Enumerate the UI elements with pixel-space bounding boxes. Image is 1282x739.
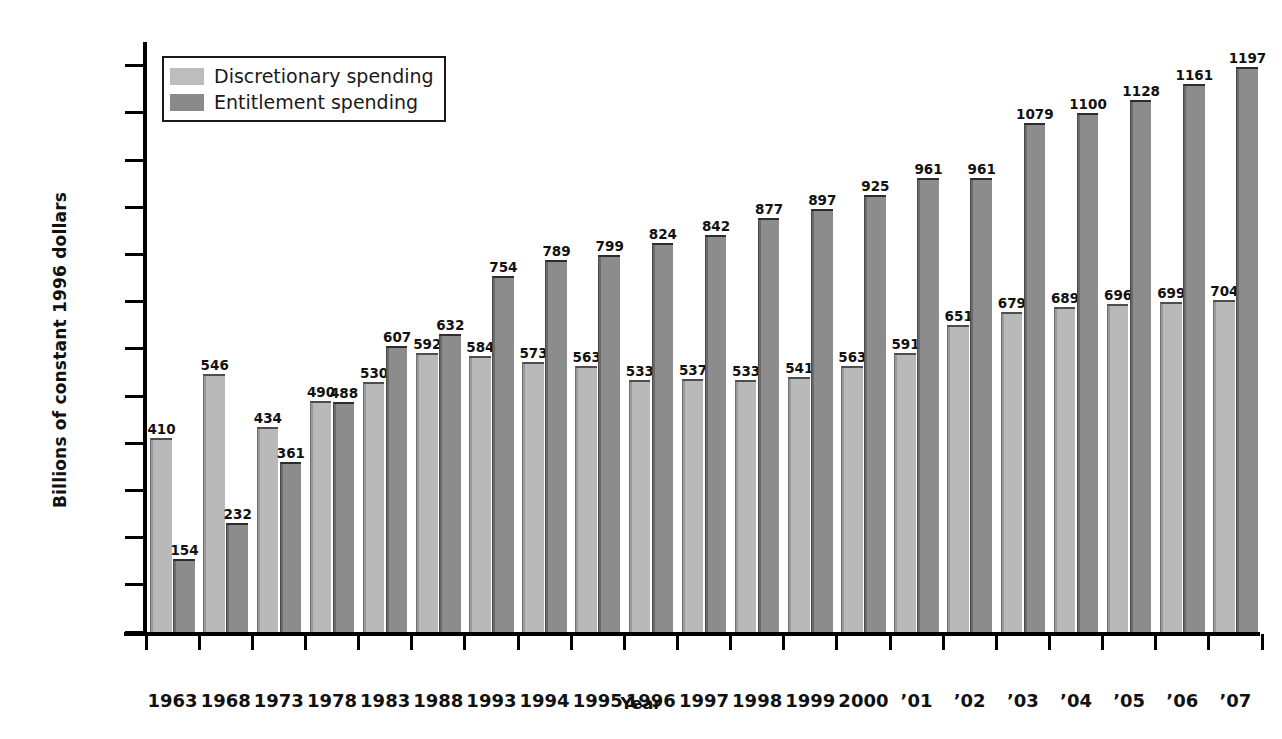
- x-axis-tick-label: 1996: [626, 690, 676, 711]
- y-axis-line: [143, 42, 147, 633]
- bar-value-label: 799: [596, 238, 624, 254]
- bar: 533: [629, 380, 651, 632]
- x-axis-tick-label: ’07: [1219, 690, 1251, 711]
- x-axis-tick: [463, 634, 466, 650]
- bar: 591: [894, 353, 916, 632]
- y-axis-tick: [125, 395, 143, 398]
- x-axis-tick: [570, 634, 573, 650]
- x-axis-tick: [995, 634, 998, 650]
- bar-value-label: 530: [360, 365, 388, 381]
- bar-value-label: 842: [702, 218, 730, 234]
- bar: 232: [226, 523, 248, 633]
- x-axis-tick-label: 1983: [360, 690, 410, 711]
- bar: 704: [1213, 300, 1235, 632]
- y-axis-tick: [125, 64, 143, 67]
- bar-value-label: 689: [1051, 290, 1079, 306]
- x-axis-tick-label: 1994: [520, 690, 570, 711]
- bar: 1100: [1077, 113, 1099, 632]
- x-axis-tick-label: 1988: [413, 690, 463, 711]
- x-axis-tick-label: 1998: [732, 690, 782, 711]
- x-axis-tick-label: ’02: [954, 690, 986, 711]
- bar-value-label: 591: [891, 336, 919, 352]
- x-axis-tick-label: ’06: [1166, 690, 1198, 711]
- bar-value-label: 1100: [1069, 96, 1107, 112]
- bar-value-label: 632: [436, 317, 464, 333]
- bar: 563: [841, 366, 863, 632]
- y-axis-tick: [125, 206, 143, 209]
- x-axis-tick: [251, 634, 254, 650]
- bar: 563: [575, 366, 597, 632]
- bar: 490: [310, 401, 332, 632]
- bar: 361: [280, 462, 302, 632]
- bar-value-label: 651: [945, 308, 973, 324]
- bar-value-label: 925: [861, 178, 889, 194]
- bar: 1079: [1024, 123, 1046, 632]
- bar-value-label: 877: [755, 201, 783, 217]
- bar: 410: [150, 438, 172, 632]
- bar: 799: [598, 255, 620, 632]
- y-axis-tick: [125, 253, 143, 256]
- legend-swatch-icon: [170, 94, 204, 111]
- bar: 584: [469, 356, 491, 632]
- bar: 592: [416, 353, 438, 632]
- bar-value-label: 584: [466, 339, 494, 355]
- bar: 537: [682, 379, 704, 632]
- bar-value-label: 563: [573, 349, 601, 365]
- x-axis-tick: [835, 634, 838, 650]
- x-axis-tick-label: 1997: [679, 690, 729, 711]
- bar: 573: [522, 362, 544, 632]
- bar-value-label: 563: [838, 349, 866, 365]
- plot-area: 0100200300400500600700800900100011001200…: [146, 42, 1262, 632]
- legend-swatch-icon: [170, 68, 204, 85]
- bar: 824: [652, 243, 674, 632]
- bar: 607: [386, 346, 408, 633]
- bar-value-label: 488: [330, 385, 358, 401]
- bar-value-label: 232: [224, 506, 252, 522]
- x-axis-tick-label: ’04: [1060, 690, 1092, 711]
- bar-value-label: 754: [489, 259, 517, 275]
- bar-value-label: 410: [147, 421, 175, 437]
- x-axis-tick: [1101, 634, 1104, 650]
- bar: 488: [333, 402, 355, 632]
- bar-value-label: 533: [732, 363, 760, 379]
- x-axis-tick-label: 1978: [307, 690, 357, 711]
- x-axis-tick: [729, 634, 732, 650]
- bar: 1161: [1183, 84, 1205, 632]
- bar: 541: [788, 377, 810, 632]
- x-axis-tick-label: 1963: [148, 690, 198, 711]
- bar-value-label: 789: [542, 243, 570, 259]
- x-axis-tick: [623, 634, 626, 650]
- bar: 789: [545, 260, 567, 632]
- bar-value-label: 1197: [1229, 50, 1267, 66]
- x-axis-tick: [357, 634, 360, 650]
- bar: 696: [1107, 304, 1129, 633]
- bar-value-label: 1161: [1175, 67, 1213, 83]
- bar: 533: [735, 380, 757, 632]
- bar-value-label: 607: [383, 329, 411, 345]
- x-axis-line: [124, 632, 1260, 636]
- x-axis-tick-label: ’01: [901, 690, 933, 711]
- y-axis-tick: [125, 300, 143, 303]
- x-axis-tick: [889, 634, 892, 650]
- x-axis-tick-label: 2000: [838, 690, 888, 711]
- x-axis-tick-label: 1999: [785, 690, 835, 711]
- x-axis-tick-label: ’03: [1007, 690, 1039, 711]
- chart-legend: Discretionary spendingEntitlement spendi…: [162, 56, 446, 122]
- bar-value-label: 824: [649, 226, 677, 242]
- bar: 679: [1001, 312, 1023, 632]
- bar-chart: Billions of constant 1996 dollars Year 0…: [0, 0, 1282, 739]
- bar-value-label: 434: [254, 410, 282, 426]
- x-axis-tick: [1048, 634, 1051, 650]
- bar-value-label: 696: [1104, 287, 1132, 303]
- y-axis-tick: [125, 442, 143, 445]
- bar: 434: [257, 427, 279, 632]
- bar-value-label: 1128: [1122, 83, 1160, 99]
- y-axis-tick: [125, 111, 143, 114]
- bar: 689: [1054, 307, 1076, 632]
- x-axis-tick: [410, 634, 413, 650]
- bar-value-label: 537: [679, 362, 707, 378]
- bar: 154: [173, 559, 195, 632]
- bar-value-label: 533: [626, 363, 654, 379]
- legend-item-label: Entitlement spending: [214, 91, 418, 113]
- bar: 1197: [1236, 67, 1258, 632]
